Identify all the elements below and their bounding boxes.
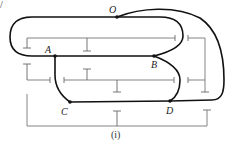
path-o-outer-arc — [117, 9, 224, 101]
path-left-loop-ab — [10, 17, 154, 56]
right-vertical-bracket — [188, 38, 205, 92]
node-d — [168, 99, 172, 103]
path-b-to-o — [117, 17, 183, 56]
label-c: C — [61, 106, 68, 117]
label-o: O — [109, 4, 116, 15]
figure-caption: (i) — [111, 129, 120, 141]
label-b: B — [151, 59, 157, 70]
node-o — [115, 15, 119, 19]
label-a: A — [44, 44, 52, 55]
node-a — [53, 54, 57, 58]
path-d-to-c — [70, 101, 170, 102]
path-b-to-d — [154, 56, 180, 101]
thin-lines — [23, 35, 211, 126]
knot-diagram: / — [0, 0, 235, 143]
path-c-to-a — [55, 56, 70, 102]
node-c — [68, 100, 72, 104]
label-d: D — [165, 105, 174, 116]
corner-mark: / — [0, 0, 3, 10]
node-b — [152, 54, 156, 58]
